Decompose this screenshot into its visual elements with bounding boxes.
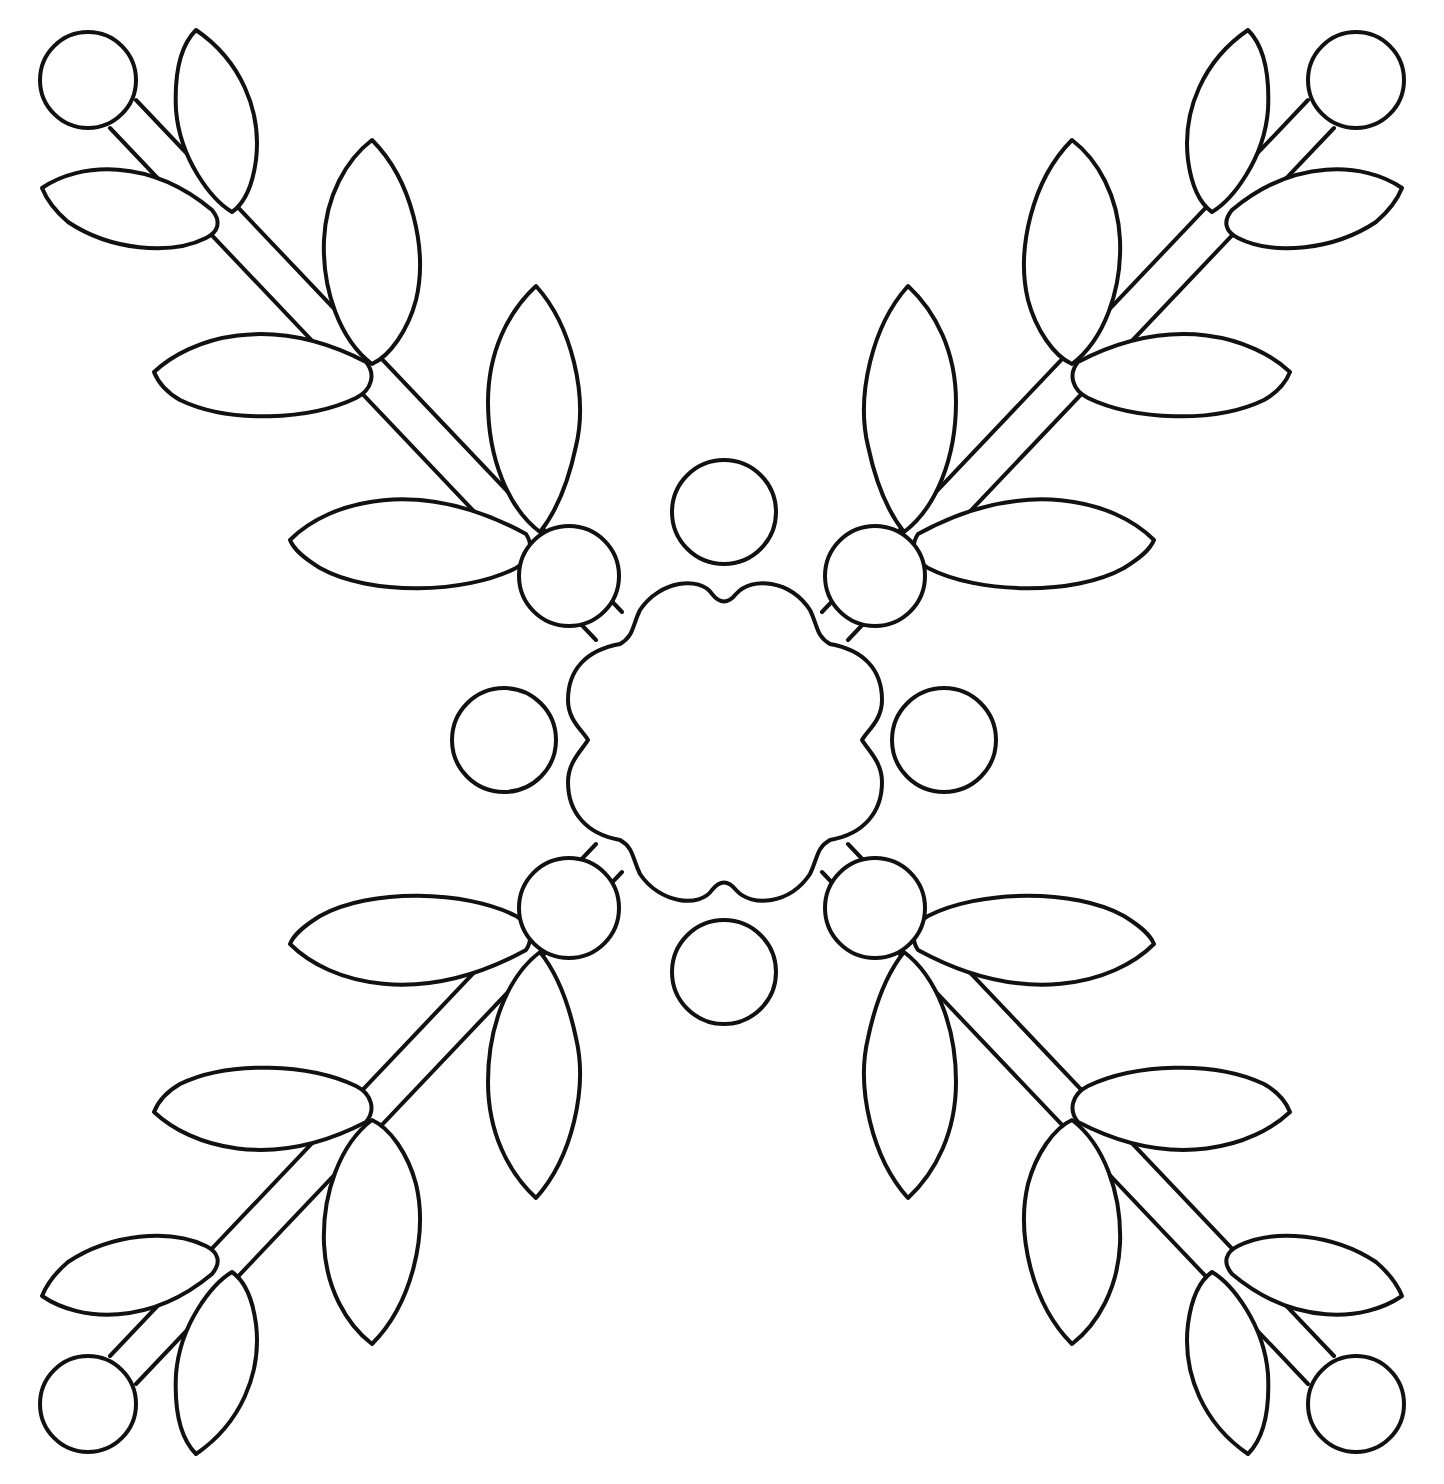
pattern-svg xyxy=(0,0,1444,1484)
center-scalloped-shape xyxy=(568,583,882,901)
circle-bottom xyxy=(672,920,776,1024)
branch-bottom-left xyxy=(40,844,622,1454)
branch-top-left xyxy=(40,30,622,640)
branch-bottom-right xyxy=(822,844,1404,1454)
circle-top xyxy=(672,460,776,564)
branch-top-right xyxy=(822,30,1404,640)
circle-left xyxy=(452,688,556,792)
line-art-canvas: Line-art applique/quilt pattern: four le… xyxy=(0,0,1444,1484)
circle-right xyxy=(892,688,996,792)
